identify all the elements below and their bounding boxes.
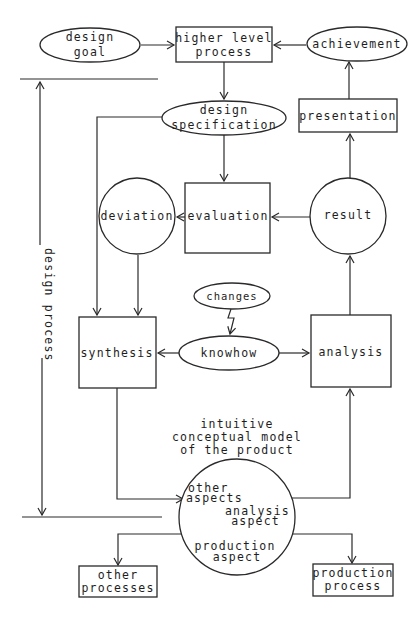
- node-design-specification: design specification: [162, 101, 286, 135]
- svg-text:aspect: aspect: [231, 514, 280, 528]
- svg-text:specification: specification: [171, 118, 277, 132]
- svg-text:production: production: [312, 566, 393, 580]
- node-achievement: achievement: [307, 27, 407, 61]
- svg-text:process: process: [325, 579, 382, 593]
- svg-text:result: result: [324, 208, 373, 222]
- svg-text:analysis: analysis: [319, 345, 384, 359]
- node-presentation: presentation: [299, 99, 397, 132]
- node-result: result: [310, 178, 386, 254]
- svg-text:achievement: achievement: [312, 37, 401, 51]
- svg-text:higher level: higher level: [175, 31, 272, 45]
- svg-text:aspect: aspect: [213, 550, 262, 564]
- svg-text:knowhow: knowhow: [201, 346, 258, 360]
- node-conceptual-model: other aspects analysis aspect production…: [179, 459, 295, 575]
- design-process-bracket: design process: [20, 79, 162, 517]
- edge-changes-to-knowhow: [228, 309, 234, 334]
- svg-text:evaluation: evaluation: [187, 209, 268, 223]
- node-production-process: production process: [312, 564, 393, 596]
- svg-text:other: other: [98, 568, 139, 582]
- design-process-label: design process: [42, 248, 56, 362]
- svg-text:presentation: presentation: [299, 109, 396, 123]
- edge-model-to-other-processes: [118, 534, 184, 565]
- node-other-processes: other processes: [79, 566, 157, 597]
- node-synthesis: synthesis: [79, 317, 156, 388]
- edge-model-to-production-process: [290, 534, 352, 563]
- node-higher-level-process: higher level process: [175, 27, 272, 62]
- node-design-goal: design goal: [40, 28, 140, 62]
- svg-text:processes: processes: [81, 581, 154, 595]
- svg-text:goal: goal: [74, 45, 107, 59]
- svg-text:of the product: of the product: [180, 443, 294, 457]
- svg-text:deviation: deviation: [100, 209, 173, 223]
- node-analysis: analysis: [311, 315, 391, 387]
- svg-text:synthesis: synthesis: [80, 346, 153, 360]
- svg-text:process: process: [196, 45, 253, 59]
- node-evaluation: evaluation: [185, 183, 270, 253]
- design-process-diagram: design process: [0, 0, 420, 621]
- node-knowhow: knowhow: [179, 336, 279, 370]
- svg-text:aspects: aspects: [186, 491, 243, 505]
- model-caption: intuitive conceptual model of the produc…: [172, 417, 302, 457]
- svg-text:intuitive: intuitive: [200, 417, 273, 431]
- node-deviation: deviation: [99, 178, 175, 254]
- svg-text:conceptual model: conceptual model: [172, 430, 302, 444]
- svg-text:design: design: [66, 30, 115, 44]
- svg-text:design: design: [200, 103, 249, 117]
- svg-text:changes: changes: [206, 290, 257, 302]
- node-changes: changes: [194, 283, 270, 309]
